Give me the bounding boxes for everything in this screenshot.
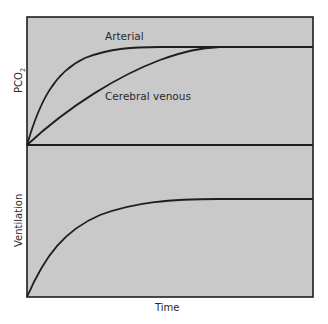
bottom-panel-background bbox=[27, 145, 313, 297]
pco2-axis-label: PCO2 bbox=[13, 68, 27, 93]
ventilation-axis-label: Ventilation bbox=[13, 194, 24, 247]
pco2-main: PCO bbox=[13, 72, 24, 93]
time-axis-label: Time bbox=[154, 302, 179, 313]
pco2-subscript: 2 bbox=[19, 68, 27, 72]
cerebral-venous-label: Cerebral venous bbox=[105, 90, 191, 102]
top-panel-background bbox=[27, 17, 313, 145]
arterial-label: Arterial bbox=[105, 30, 144, 42]
physiology-chart: Arterial Cerebral venous PCO2 Ventilatio… bbox=[0, 0, 328, 324]
